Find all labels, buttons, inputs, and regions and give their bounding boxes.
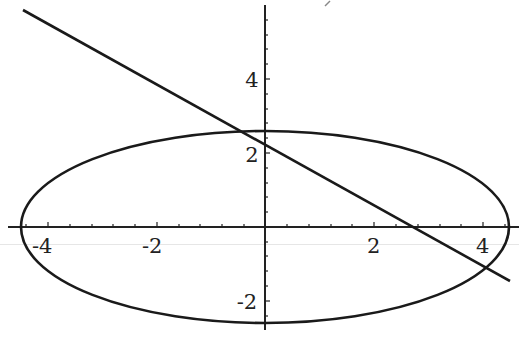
scan-artifact-mark <box>325 1 330 6</box>
plot-canvas: -4 -2 2 4 4 2 -2 <box>0 0 519 338</box>
x-tick-label: 4 <box>476 234 489 258</box>
y-tick-label: 4 <box>245 68 258 92</box>
y-tick-label: -2 <box>237 290 257 314</box>
y-axis-ticks <box>265 20 270 316</box>
x-tick-labels: -4 -2 2 4 <box>32 234 489 258</box>
y-tick-labels: 4 2 -2 <box>237 68 259 314</box>
x-tick-label: -2 <box>142 234 162 258</box>
x-tick-label: 2 <box>367 234 380 258</box>
straight-line-curve <box>23 10 510 281</box>
x-tick-label: -4 <box>32 234 52 258</box>
y-tick-label: 2 <box>245 143 258 167</box>
